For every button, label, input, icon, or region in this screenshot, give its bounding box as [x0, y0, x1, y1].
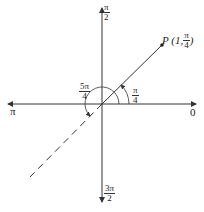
angle-label-5pi-4: 5π4 [79, 80, 90, 101]
label-pi: π [10, 106, 16, 117]
label-pi-over-2: π2 [103, 1, 110, 22]
angle-arc-pi-4 [121, 85, 129, 104]
point-p-label: P (1, π4 ) [162, 31, 193, 50]
dashed-extension [30, 104, 102, 177]
label-3pi-over-2: 3π2 [104, 182, 115, 203]
angle-label-pi-4: π4 [132, 84, 139, 105]
label-zero: 0 [190, 107, 196, 118]
